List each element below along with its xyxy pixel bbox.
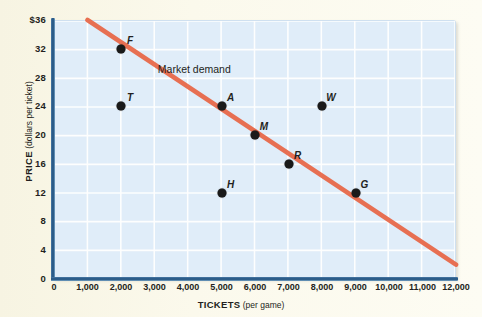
data-point-a (217, 102, 226, 111)
x-tick-label: 9,000 (344, 282, 367, 292)
x-tick-label: 10,000 (375, 282, 403, 292)
data-point-r (284, 159, 293, 168)
y-tick-label: 8 (2, 215, 46, 226)
x-axis-line (51, 277, 458, 281)
data-point-label-r: R (294, 149, 301, 160)
market-demand-label: Market demand (158, 63, 231, 75)
data-point-w (318, 102, 327, 111)
x-tick-label: 1,000 (76, 282, 99, 292)
x-tick-label: 12,000 (442, 282, 470, 292)
x-tick-label: 5,000 (210, 282, 233, 292)
x-tick-label: 2,000 (110, 282, 133, 292)
y-tick-label: $36 (2, 14, 46, 25)
y-axis-title-unit: (dollars per ticket) (24, 81, 34, 149)
y-axis-title: PRICE (dollars per ticket) (23, 52, 34, 212)
data-point-label-h: H (227, 178, 234, 189)
data-point-t (117, 102, 126, 111)
data-point-label-f: F (127, 34, 133, 45)
x-axis-title-unit: (per game) (243, 300, 285, 310)
y-axis-line (51, 18, 55, 281)
x-tick-label: 11,000 (409, 282, 436, 292)
data-point-m (251, 131, 260, 140)
y-tick-label: 0 (2, 273, 46, 284)
y-axis-title-bold: PRICE (23, 151, 34, 182)
x-tick-label: 6,000 (244, 282, 267, 292)
x-tick-label: 0 (51, 282, 56, 292)
data-point-g (351, 188, 360, 197)
plot-area (54, 20, 456, 279)
data-point-f (117, 44, 126, 53)
x-axis-title: TICKETS (per game) (0, 299, 482, 310)
data-point-label-a: A (227, 92, 234, 103)
x-tick-label: 4,000 (177, 282, 200, 292)
x-axis-title-bold: TICKETS (198, 299, 241, 310)
gridlines (54, 21, 455, 279)
x-tick-label: 7,000 (277, 282, 300, 292)
data-point-h (217, 188, 226, 197)
figure-container: $36322824201612840 01,0002,0003,0004,000… (0, 0, 482, 317)
data-point-label-w: W (326, 92, 335, 103)
data-point-label-t: T (127, 92, 133, 103)
data-point-label-g: G (361, 178, 369, 189)
x-tick-label: 8,000 (311, 282, 334, 292)
x-tick-label: 3,000 (143, 282, 166, 292)
y-tick-label: 4 (2, 244, 46, 255)
data-point-label-m: M (260, 121, 268, 132)
